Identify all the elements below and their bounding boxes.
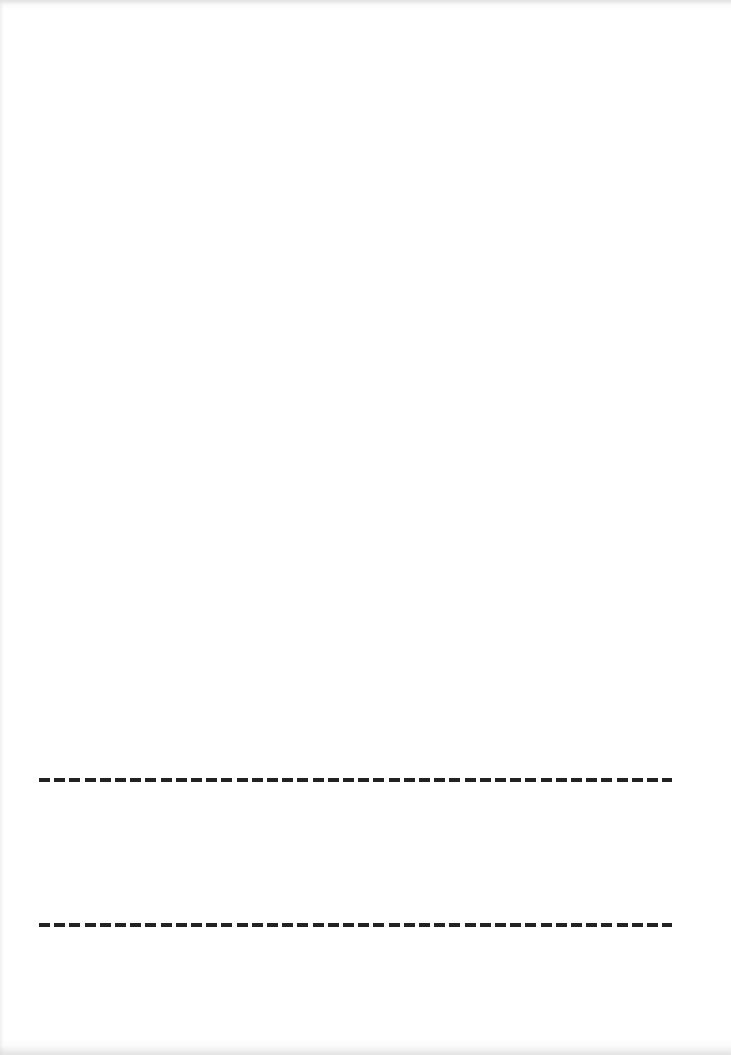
scan-noise-left bbox=[0, 0, 4, 1055]
dashed-line-1 bbox=[39, 778, 672, 782]
dashed-line-2 bbox=[39, 923, 672, 927]
document-page bbox=[0, 0, 731, 1055]
scan-noise-bottom bbox=[0, 1039, 731, 1055]
scan-noise-top bbox=[0, 0, 731, 10]
